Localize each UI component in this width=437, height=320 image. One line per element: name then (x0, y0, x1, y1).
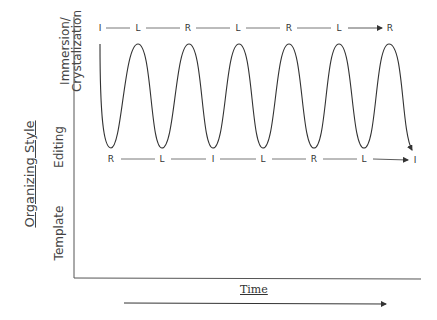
bottom-seq-3: L (260, 154, 265, 164)
top-seq-5: L (336, 23, 341, 33)
oscillation-curve (100, 44, 412, 150)
bottom-seq-5: L (361, 154, 366, 164)
bottom-seq-1: L (159, 154, 164, 164)
x-axis-line (74, 278, 421, 279)
top-seq-2: R (185, 23, 191, 33)
bottom-seq-2: I (212, 154, 215, 164)
top-seq-3: L (235, 23, 240, 33)
top-seq-1: L (135, 23, 140, 33)
bottom-seq-0: R (108, 154, 114, 164)
bottom-sequence: R L I L R L I (108, 154, 416, 165)
top-seq-6: R (387, 23, 393, 33)
top-seq-4: R (286, 23, 292, 33)
top-seq-0: I (99, 23, 102, 33)
bottom-seq-4: R (311, 154, 317, 164)
x-axis-title: Time (240, 283, 268, 296)
top-sequence: I L R L R L R (99, 23, 393, 33)
diagram-canvas: I L R L R L R R L I L R L I (0, 0, 437, 320)
time-arrow (124, 303, 386, 304)
bottom-seq-6: I (414, 155, 417, 165)
